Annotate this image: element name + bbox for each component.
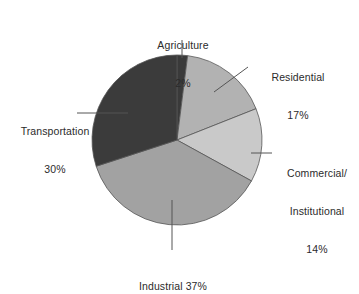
slice-label-agriculture-name: Agriculture [128,39,238,52]
slice-label-residential-value: 17% [244,109,352,122]
slice-label-commercial-value: 14% [276,243,358,256]
slice-label-agriculture: Agriculture 2% [128,14,238,115]
slice-label-commercial-name-line1: Commercial/ [276,167,358,180]
slice-label-commercial-institutional: Commercial/ Institutional 14% [276,142,358,281]
slice-label-agriculture-value: 2% [128,77,238,90]
slice-label-industrial-text: Industrial 37% [108,280,238,293]
slice-label-commercial-name-line2: Institutional [276,205,358,218]
slice-label-residential: Residential 17% [244,46,352,147]
slice-label-transportation: Transportation 30% [2,100,108,201]
slice-label-transportation-name: Transportation [2,125,108,138]
slice-label-residential-name: Residential [244,71,352,84]
slice-label-industrial: Industrial 37% [108,255,238,294]
slice-label-transportation-value: 30% [2,163,108,176]
